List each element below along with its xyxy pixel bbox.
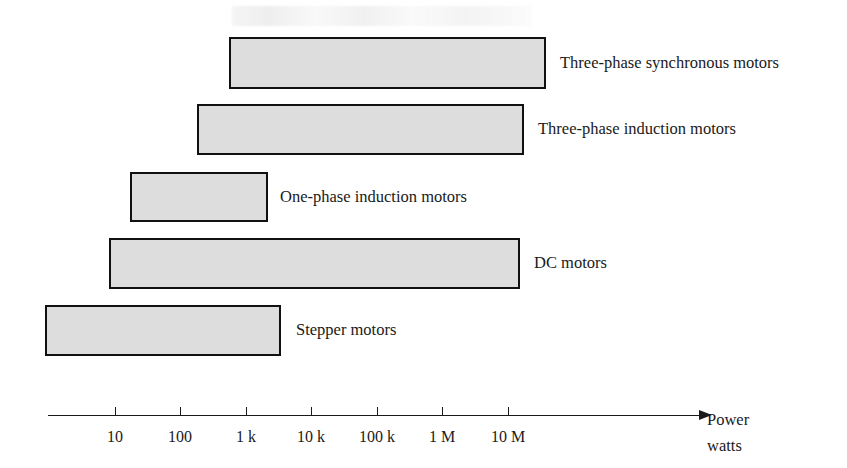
x-axis-title-line1: Power bbox=[707, 407, 749, 433]
x-axis-title: Power watts bbox=[707, 407, 749, 458]
x-axis-title-line2: watts bbox=[707, 433, 749, 459]
x-axis-tick-label-100k: 100 k bbox=[359, 429, 395, 445]
x-axis-tick-label-10M: 10 M bbox=[491, 429, 525, 445]
x-axis-tick-100 bbox=[180, 407, 181, 415]
x-axis-tick-label-1k: 1 k bbox=[236, 429, 256, 445]
bar-label-dc-motors: DC motors bbox=[534, 255, 607, 272]
bar-label-three-phase-induction-motors: Three-phase induction motors bbox=[538, 121, 736, 138]
x-axis-tick-100k bbox=[377, 407, 378, 415]
x-axis-line bbox=[48, 415, 700, 416]
x-axis-tick-1k bbox=[246, 407, 247, 415]
bar-label-one-phase-induction-motors: One-phase induction motors bbox=[280, 189, 467, 206]
bar-label-three-phase-synchronous-motors: Three-phase synchronous motors bbox=[560, 55, 779, 72]
x-axis-tick-10k bbox=[311, 407, 312, 415]
x-axis-tick-10M bbox=[508, 407, 509, 415]
x-axis-tick-1M bbox=[442, 407, 443, 415]
scan-artifact-smudge bbox=[232, 6, 532, 26]
chart-canvas: Three-phase synchronous motors Three-pha… bbox=[0, 0, 847, 468]
bar-stepper-motors bbox=[45, 305, 281, 356]
x-axis-tick-10 bbox=[115, 407, 116, 415]
bar-dc-motors bbox=[109, 238, 520, 289]
x-axis-tick-label-1M: 1 M bbox=[429, 429, 455, 445]
x-axis-tick-label-10: 10 bbox=[107, 429, 123, 445]
bar-one-phase-induction-motors bbox=[130, 172, 268, 222]
bar-label-stepper-motors: Stepper motors bbox=[296, 322, 396, 339]
x-axis-tick-label-100: 100 bbox=[168, 429, 192, 445]
x-axis-tick-label-10k: 10 k bbox=[297, 429, 325, 445]
bar-three-phase-induction-motors bbox=[197, 104, 524, 155]
bar-three-phase-synchronous-motors bbox=[229, 37, 546, 89]
